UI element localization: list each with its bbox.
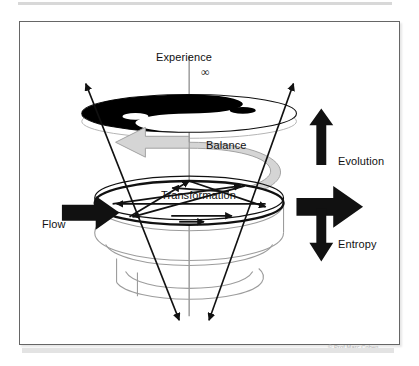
scan-artifact-bottom: [22, 348, 394, 353]
label-evolution: Evolution: [338, 156, 384, 167]
label-experience: Experience: [156, 52, 212, 63]
scan-artifact-top: [18, 2, 392, 5]
label-transformation: Transformation: [161, 190, 236, 201]
infinity-icon: ∞: [201, 66, 210, 78]
down-arrow-icon: [309, 209, 333, 262]
label-balance: Balance: [206, 140, 246, 151]
label-entropy: Entropy: [338, 239, 377, 250]
scanned-page: Experience ∞ Balance Transformation Flow…: [0, 0, 419, 366]
label-flow: Flow: [42, 219, 66, 230]
figure-frame: Experience ∞ Balance Transformation Flow…: [19, 21, 400, 345]
up-arrow-icon: [309, 108, 333, 165]
output-arrow-icon: [296, 186, 363, 228]
yin-yang-icon: [82, 95, 297, 133]
